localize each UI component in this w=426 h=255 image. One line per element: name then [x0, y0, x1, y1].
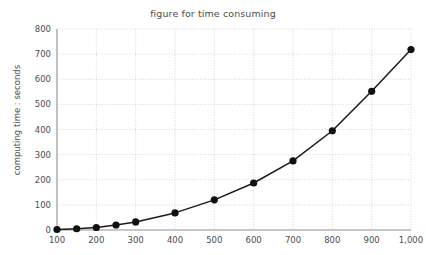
- y-tick-label-600: 600: [35, 74, 51, 84]
- x-tick-label-600: 600: [246, 235, 262, 245]
- y-tick-label-200: 200: [35, 175, 51, 185]
- data-series-line: [57, 50, 411, 230]
- x-axis-ticks: 1002003004005006007008009001,000: [49, 235, 423, 245]
- data-point-marker: [407, 46, 414, 53]
- data-point-marker: [132, 218, 139, 225]
- x-tick-label-800: 800: [324, 235, 340, 245]
- data-point-marker: [73, 225, 80, 232]
- data-point-marker: [93, 224, 100, 231]
- data-point-marker: [289, 157, 296, 164]
- x-tick-label-200: 200: [88, 235, 104, 245]
- y-tick-label-100: 100: [35, 200, 51, 210]
- plot-area: 0100200300400500600700800 10020030040050…: [0, 0, 426, 255]
- y-tick-label-700: 700: [35, 49, 51, 59]
- data-point-marker: [368, 88, 375, 95]
- y-tick-label-0: 0: [46, 225, 51, 235]
- y-axis-ticks: 0100200300400500600700800: [35, 24, 51, 235]
- data-point-marker: [53, 226, 60, 233]
- gridlines-horizontal: [57, 29, 411, 205]
- y-tick-label-800: 800: [35, 24, 51, 34]
- series-polyline: [57, 50, 411, 230]
- x-tick-label-300: 300: [128, 235, 144, 245]
- data-point-marker: [171, 209, 178, 216]
- x-tick-label-100: 100: [49, 235, 65, 245]
- x-tick-label-500: 500: [206, 235, 222, 245]
- chart-figure: figure for time consuming computing time…: [0, 0, 426, 255]
- y-tick-label-400: 400: [35, 125, 51, 135]
- data-point-marker: [329, 127, 336, 134]
- x-tick-label-1000: 1,000: [399, 235, 423, 245]
- x-tick-label-700: 700: [285, 235, 301, 245]
- y-tick-label-300: 300: [35, 150, 51, 160]
- data-point-marker: [211, 196, 218, 203]
- x-tick-label-900: 900: [364, 235, 380, 245]
- data-point-marker: [112, 221, 119, 228]
- y-tick-label-500: 500: [35, 99, 51, 109]
- data-point-marker: [250, 179, 257, 186]
- x-tick-label-400: 400: [167, 235, 183, 245]
